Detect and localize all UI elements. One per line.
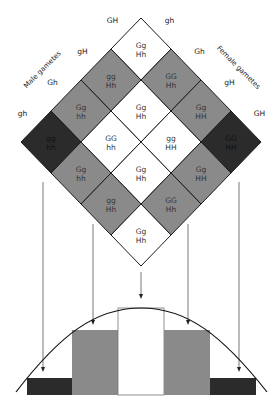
genotype-h: hh <box>106 143 116 152</box>
genotype-g: Gg <box>136 227 147 236</box>
male-gamete-label: Gh <box>47 78 58 87</box>
genotype-h: HH <box>225 143 236 152</box>
female-gamete-label: GH <box>254 109 265 118</box>
arrowhead-icon <box>237 367 241 372</box>
histogram <box>27 308 256 395</box>
genotype-h: HH <box>165 143 176 152</box>
genotype-h: Hh <box>136 236 147 245</box>
genotype-h: Hh <box>166 205 177 214</box>
male-gamete-label: gh <box>18 109 28 118</box>
genotype-h: hh <box>76 174 86 183</box>
genotype-h: Hh <box>106 205 117 214</box>
genotype-g: Gg <box>136 103 147 112</box>
arrowhead-icon <box>41 367 45 372</box>
genotype-g: Gg <box>196 103 207 112</box>
genotype-g: gg <box>46 134 56 143</box>
histogram-bar <box>27 378 72 395</box>
genotype-g: Gg <box>136 165 147 174</box>
histogram-bar <box>164 330 210 395</box>
histogram-bar <box>210 378 256 395</box>
genotype-h: hh <box>46 143 56 152</box>
arrowhead-icon <box>139 294 143 299</box>
genotype-g: GG <box>105 134 117 143</box>
genotype-h: Hh <box>136 174 147 183</box>
genotype-g: GG <box>225 134 237 143</box>
genotype-h: Hh <box>166 81 177 90</box>
arrowhead-icon <box>186 320 190 325</box>
genotype-g: Gg <box>196 165 207 174</box>
female-gamete-label: gH <box>224 78 234 87</box>
genotype-g: Gg <box>76 165 87 174</box>
genotype-h: HH <box>195 112 206 121</box>
genotype-g: GG <box>165 196 177 205</box>
genotype-h: HH <box>195 174 206 183</box>
genotype-h: Hh <box>136 50 147 59</box>
female-gametes-title: Female gametes <box>215 44 262 91</box>
genotype-g: gg <box>166 134 176 143</box>
male-gamete-label: gH <box>77 47 87 56</box>
female-gamete-label: Gh <box>194 47 205 56</box>
genotype-g: GG <box>165 72 177 81</box>
genotype-g: Gg <box>76 103 87 112</box>
female-gamete-label: gh <box>165 16 175 25</box>
male-gamete-label: GH <box>107 16 118 25</box>
genotype-h: Hh <box>136 112 147 121</box>
genotype-g: Gg <box>136 41 147 50</box>
genotype-g: gg <box>106 196 116 205</box>
histogram-bar <box>118 308 164 395</box>
genotype-g: gg <box>106 72 116 81</box>
punnett-diagram: GgHhGGHhGgHHGGHHggHhGgHhggHHGgHHGghhGGhh… <box>0 0 280 411</box>
histogram-bar <box>72 330 118 395</box>
genotype-h: hh <box>76 112 86 121</box>
genotype-h: Hh <box>106 81 117 90</box>
